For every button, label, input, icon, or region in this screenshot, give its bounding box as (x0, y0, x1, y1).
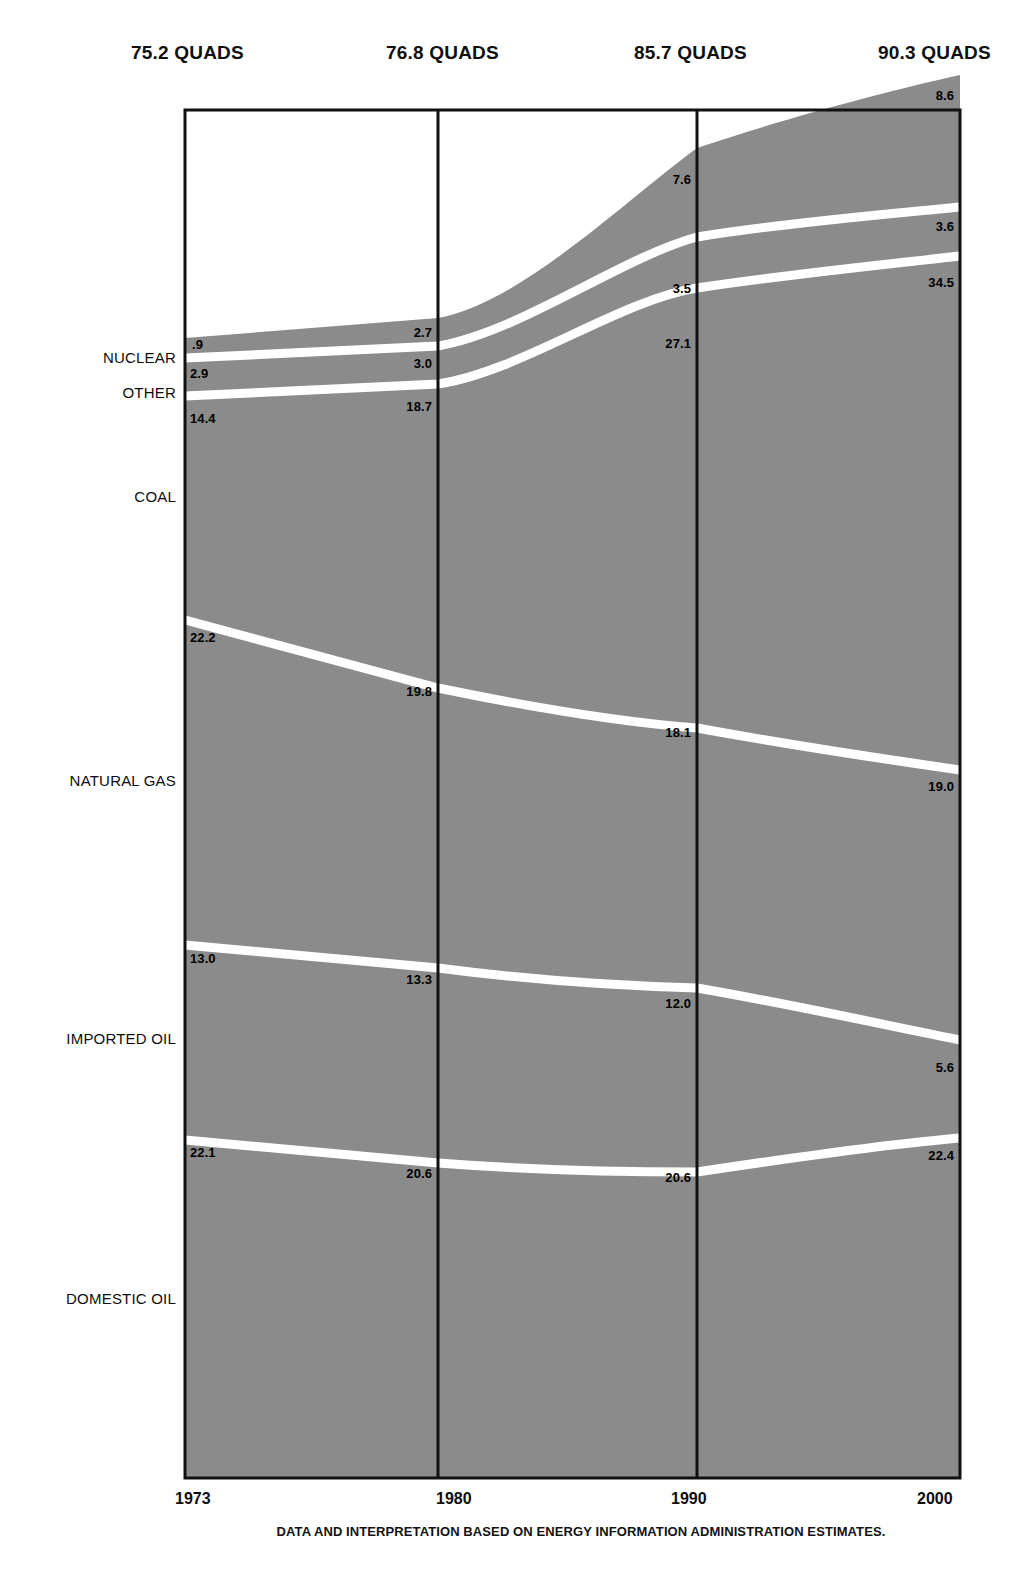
category-label-natural-gas: NATURAL GAS (0, 772, 176, 789)
value-coal-2000: 34.5 (928, 275, 954, 290)
value-imported-oil-1990: 12.0 (665, 996, 691, 1011)
value-nuclear-2000: 8.6 (936, 88, 954, 103)
category-label-domestic-oil: DOMESTIC OIL (0, 1290, 176, 1307)
category-label-nuclear: NUCLEAR (0, 349, 176, 366)
category-label-other: OTHER (0, 384, 176, 401)
chart-footnote: DATA AND INTERPRETATION BASED ON ENERGY … (186, 1524, 976, 1539)
chart-page: 75.2 QUADS 76.8 QUADS 85.7 QUADS 90.3 QU… (0, 0, 1031, 1572)
value-imported-oil-2000: 5.6 (936, 1060, 954, 1075)
value-nuclear-1973: .9 (192, 337, 203, 352)
category-label-coal: COAL (0, 488, 176, 505)
area-fill-total (185, 75, 960, 1478)
value-coal-1973: 14.4 (190, 411, 216, 426)
value-natural-gas-1990: 18.1 (665, 725, 691, 740)
value-coal-1990: 27.1 (665, 336, 691, 351)
value-domestic-oil-1990: 20.6 (665, 1170, 691, 1185)
xtick-1973: 1973 (175, 1490, 211, 1508)
value-coal-1980: 18.7 (406, 399, 432, 414)
value-natural-gas-1980: 19.8 (406, 684, 432, 699)
value-natural-gas-2000: 19.0 (928, 779, 954, 794)
xtick-1990: 1990 (671, 1490, 707, 1508)
value-other-1980: 3.0 (414, 356, 432, 371)
value-domestic-oil-1980: 20.6 (406, 1166, 432, 1181)
value-domestic-oil-2000: 22.4 (928, 1148, 954, 1163)
xtick-1980: 1980 (436, 1490, 472, 1508)
value-imported-oil-1973: 13.0 (190, 951, 216, 966)
xtick-2000: 2000 (917, 1490, 953, 1508)
value-other-1990: 3.5 (673, 281, 691, 296)
value-domestic-oil-1973: 22.1 (190, 1145, 216, 1160)
value-other-1973: 2.9 (190, 366, 208, 381)
value-nuclear-1980: 2.7 (414, 325, 432, 340)
value-natural-gas-1973: 22.2 (190, 630, 216, 645)
value-imported-oil-1980: 13.3 (406, 972, 432, 987)
value-other-2000: 3.6 (936, 219, 954, 234)
value-nuclear-1990: 7.6 (673, 172, 691, 187)
category-label-imported-oil: IMPORTED OIL (0, 1030, 176, 1047)
